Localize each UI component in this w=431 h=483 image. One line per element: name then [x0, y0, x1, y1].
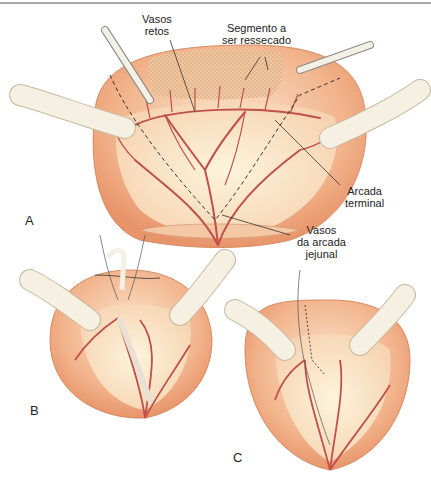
label-line: Arcada: [345, 185, 384, 197]
panel-label-b: B: [30, 403, 39, 418]
panel-b-illustration: [30, 235, 225, 418]
label-vasos-retos: Vasos retos: [142, 13, 172, 37]
label-line: retos: [142, 25, 172, 37]
panel-label-c: C: [233, 450, 242, 465]
label-arcada-terminal: Arcada terminal: [345, 185, 384, 209]
label-line: da arcada: [297, 236, 346, 248]
label-line: ser ressecado: [222, 34, 291, 46]
panel-label-a: A: [25, 213, 34, 228]
label-line: Vasos: [297, 224, 346, 236]
panel-c-illustration: [235, 270, 410, 470]
panel-a-illustration: [20, 30, 420, 248]
label-vasos-arcada-jejunal: Vasos da arcada jejunal: [297, 224, 346, 260]
label-line: Segmento a: [222, 22, 291, 34]
label-line: terminal: [345, 197, 384, 209]
label-segmento-ressecado: Segmento a ser ressecado: [222, 22, 291, 46]
label-line: Vasos: [142, 13, 172, 25]
label-line: jejunal: [297, 248, 346, 260]
surgical-illustration: [0, 0, 431, 483]
